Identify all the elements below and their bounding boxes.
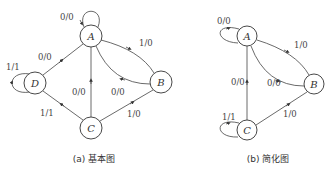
state-diagrams: 0/0 1/0 0/0 0/0 0/0 1/1 1/1 1/0 A — [0, 0, 334, 174]
state-node-a: A — [80, 25, 102, 47]
label-c-c: 1/1 — [222, 112, 236, 122]
label-c-d: 1/1 — [40, 108, 54, 118]
svg-text:B: B — [156, 77, 164, 88]
label-c-a: 0/0 — [72, 87, 86, 97]
state-node-a: A — [237, 26, 257, 46]
edge-a-a — [220, 28, 239, 43]
edge-b-c — [256, 92, 307, 125]
basic-diagram: 0/0 1/0 0/0 0/0 0/0 1/1 1/1 1/0 A — [6, 11, 172, 164]
state-node-c: C — [80, 117, 102, 139]
svg-text:B: B — [309, 79, 317, 90]
caption-basic: (a) 基本图 — [73, 153, 115, 164]
label-a-b: 1/0 — [294, 40, 308, 50]
edge-b-a — [96, 46, 150, 84]
label-b-c: 1/0 — [127, 109, 141, 119]
state-node-c: C — [237, 120, 257, 140]
state-node-b: B — [150, 71, 172, 93]
label-b-a: 0/0 — [267, 78, 281, 88]
svg-text:A: A — [242, 31, 250, 42]
svg-text:A: A — [86, 31, 94, 42]
label-c-a: 0/0 — [231, 77, 245, 87]
label-d-d: 1/1 — [6, 62, 20, 72]
svg-text:C: C — [87, 123, 95, 134]
label-a-a: 0/0 — [217, 16, 231, 26]
label-a-b: 1/0 — [139, 38, 153, 48]
svg-text:D: D — [30, 78, 39, 89]
label-b-c: 1/0 — [283, 109, 297, 119]
caption-simplified: (b) 简化图 — [247, 153, 290, 164]
label-a-a: 0/0 — [60, 12, 74, 22]
svg-text:C: C — [243, 125, 251, 136]
arrow-a-a — [80, 20, 82, 24]
edge-c-c — [220, 122, 239, 137]
label-d-a: 0/0 — [38, 52, 52, 62]
state-node-b: B — [304, 74, 324, 94]
state-node-d: D — [24, 72, 46, 94]
simplified-diagram: 0/0 1/0 0/0 0/0 1/1 1/0 A B C — [217, 16, 324, 164]
label-b-a: 0/0 — [111, 87, 125, 97]
